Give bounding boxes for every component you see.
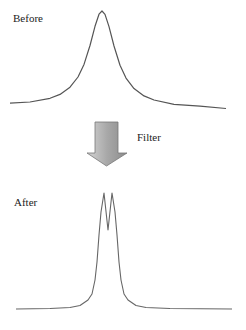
down-arrow-icon — [87, 122, 127, 166]
before-curve — [10, 11, 226, 109]
filter-label: Filter — [137, 131, 161, 143]
after-curve — [16, 193, 232, 309]
diagram-graphics — [0, 0, 246, 330]
after-label: After — [14, 196, 37, 208]
before-label: Before — [13, 12, 43, 24]
filter-diagram: Before Filter After — [0, 0, 246, 330]
